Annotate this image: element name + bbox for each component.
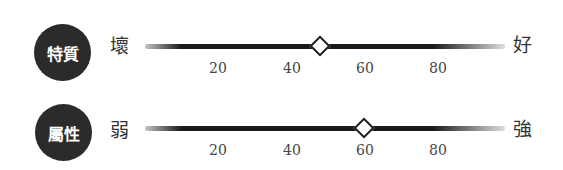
high-label: 強 [513,118,532,140]
slider-marker[interactable] [353,117,374,138]
low-label: 弱 [110,119,129,141]
tick-label: 40 [283,142,301,158]
scale-row-attribute: 屬性 弱 20 40 60 80 強 [0,0,563,80]
tick-label: 20 [209,142,227,158]
tick-label: 60 [356,142,374,158]
slider-track[interactable] [145,126,505,131]
tick-label: 80 [429,142,447,158]
scale-badge: 屬性 [35,104,92,161]
